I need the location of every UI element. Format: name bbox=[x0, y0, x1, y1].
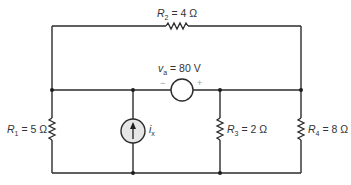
label-va: va = 80 V bbox=[158, 62, 201, 76]
resistor-r1 bbox=[49, 118, 55, 140]
label-r1: R1 = 5 Ω bbox=[7, 123, 47, 137]
resistor-r2 bbox=[166, 23, 188, 29]
branch-r1 bbox=[49, 90, 55, 173]
label-r2: R2 = 4 Ω bbox=[157, 7, 197, 21]
branch-ix bbox=[121, 90, 145, 173]
middle-branch bbox=[52, 79, 301, 101]
resistor-r4 bbox=[298, 118, 304, 140]
va-plus-sign: + bbox=[197, 78, 202, 88]
branch-r3 bbox=[217, 90, 223, 173]
voltage-source-va bbox=[171, 79, 193, 101]
top-branch bbox=[52, 23, 301, 29]
circuit-diagram: R2 = 4 Ω va = 80 V − + R1 = 5 Ω ix R3 = … bbox=[0, 0, 351, 185]
branch-r4 bbox=[298, 90, 304, 173]
label-r4: R4 = 8 Ω bbox=[308, 123, 348, 137]
label-r3: R3 = 2 Ω bbox=[227, 123, 267, 137]
resistor-r3 bbox=[217, 118, 223, 140]
label-ix: ix bbox=[149, 123, 155, 137]
va-minus-sign: − bbox=[160, 78, 165, 88]
